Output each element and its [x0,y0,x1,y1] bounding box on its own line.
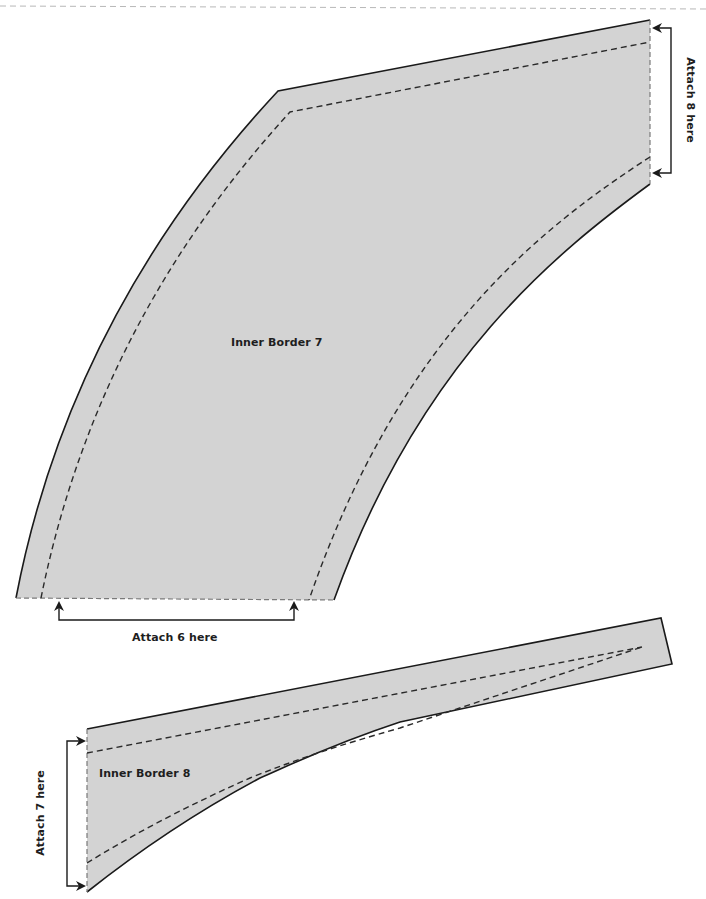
inner-border-8-label: Inner Border 8 [99,767,190,780]
inner-border-8-piece [87,618,672,892]
pattern-canvas [0,0,706,899]
attach-8-bracket [652,23,671,178]
inner-border-8-fill [87,618,672,892]
attach-7-label: Attach 7 here [34,770,47,856]
attach-6-label: Attach 6 here [132,631,218,644]
inner-border-7-piece [16,20,650,600]
inner-border-8-seam-upper [87,647,642,753]
page-trim-line [0,6,706,9]
attach-8-label: Attach 8 here [684,57,697,143]
inner-border-7-label: Inner Border 7 [231,336,322,349]
inner-border-7-fill [16,20,650,600]
attach-6-bracket [54,601,299,620]
attach-7-bracket [67,736,86,891]
